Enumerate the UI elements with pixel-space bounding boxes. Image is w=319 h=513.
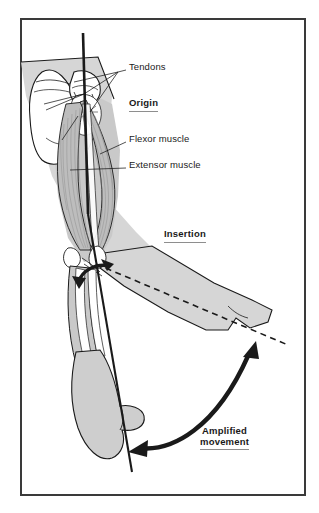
label-flexor-muscle: Flexor muscle [129,134,189,145]
amplified-line-1: Amplified [202,425,247,436]
label-amplified-movement: Amplified movement [200,426,249,450]
label-insertion: Insertion [164,229,206,243]
figure-root: Tendons Origin Flexor muscle Extensor mu… [0,0,319,513]
label-tendons: Tendons [129,62,166,73]
label-extensor-muscle: Extensor muscle [129,160,201,171]
anatomy-diagram-svg [0,0,319,513]
label-origin: Origin [129,98,158,112]
amplified-line-2: movement [200,436,249,447]
